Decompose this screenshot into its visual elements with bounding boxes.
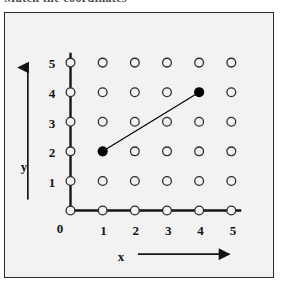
lattice-point	[66, 117, 75, 126]
y-tick-label: 5	[44, 57, 60, 70]
lattice-point	[66, 58, 75, 67]
x-axis-label: x	[113, 250, 129, 263]
cropped-header-text: Match the coordinates	[0, 0, 281, 9]
lattice-point	[130, 147, 139, 156]
lattice-point	[163, 88, 172, 97]
lattice-point	[163, 177, 172, 186]
lattice-point	[163, 147, 172, 156]
lattice-point	[98, 117, 107, 126]
y-tick-label: 4	[44, 87, 60, 100]
lattice-point	[130, 206, 139, 215]
cropped-header-text-label: Match the coordinates	[4, 0, 127, 6]
lattice-point	[98, 58, 107, 67]
lattice-point	[66, 206, 75, 215]
marked-point	[98, 146, 108, 156]
x-tick-label: 5	[225, 224, 241, 237]
lattice-point	[227, 177, 236, 186]
x-tick-label: 2	[128, 224, 144, 237]
lattice-point	[66, 177, 75, 186]
lattice-point	[163, 206, 172, 215]
marked-point	[194, 87, 204, 97]
x-tick-label: 3	[160, 224, 176, 237]
x-tick-label: 0	[52, 222, 68, 235]
lattice-point	[163, 58, 172, 67]
segment-layer	[103, 92, 199, 151]
lattice-point	[227, 88, 236, 97]
lattice-point	[227, 206, 236, 215]
lattice-point	[130, 58, 139, 67]
lattice-point	[227, 147, 236, 156]
lattice-point	[66, 147, 75, 156]
x-tick-label: 4	[193, 224, 209, 237]
lattice-point	[98, 177, 107, 186]
x-tick-label: 1	[95, 224, 111, 237]
y-tick-label: 1	[44, 176, 60, 189]
y-tick-label: 3	[44, 117, 60, 130]
lattice-point	[98, 88, 107, 97]
lattice-point	[227, 117, 236, 126]
lattice-point	[195, 177, 204, 186]
lattice-point	[130, 88, 139, 97]
lattice-point	[195, 147, 204, 156]
lattice-point	[195, 58, 204, 67]
y-tick-label: 2	[44, 146, 60, 159]
lattice-point	[66, 88, 75, 97]
lattice-point-layer	[66, 58, 236, 215]
lattice-point	[98, 206, 107, 215]
lattice-point	[227, 58, 236, 67]
lattice-point	[195, 206, 204, 215]
lattice-point	[130, 177, 139, 186]
axis-lines	[71, 53, 242, 211]
lattice-point	[163, 117, 172, 126]
y-axis-label: y	[16, 160, 32, 173]
lattice-point	[130, 117, 139, 126]
figure-frame: 01234512345yx	[4, 12, 274, 278]
lattice-point	[195, 117, 204, 126]
connecting-segment	[103, 92, 199, 151]
